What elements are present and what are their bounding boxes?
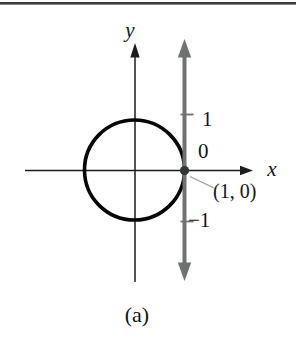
tick-label-1: 1	[202, 107, 213, 131]
leader-line	[190, 177, 214, 189]
figure-caption: (a)	[125, 302, 149, 327]
number-line-up-arrowhead-icon	[178, 39, 191, 58]
tick-label-neg-1: −1	[188, 208, 210, 232]
point-dot	[180, 166, 189, 175]
top-rule	[0, 2, 296, 5]
x-axis-label: x	[266, 157, 277, 181]
y-axis-label: y	[123, 18, 135, 42]
unit-circle-figure: y x 1 0 −1 (1, 0) (a)	[0, 0, 296, 339]
y-axis-arrowhead-icon	[130, 43, 139, 58]
point-label: (1, 0)	[213, 180, 256, 203]
figure-canvas: y x 1 0 −1 (1, 0) (a)	[0, 0, 296, 339]
tick-label-0: 0	[198, 139, 209, 163]
x-axis-arrowhead-icon	[240, 166, 253, 176]
number-line-down-arrowhead-icon	[178, 263, 191, 282]
